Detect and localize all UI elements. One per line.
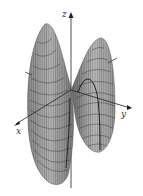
saddle-surface-figure: x y z: [0, 0, 143, 196]
y-axis-label: y: [120, 109, 127, 119]
x-axis-label: x: [16, 126, 21, 136]
z-axis-label: z: [61, 9, 67, 19]
saddle-right-lobe: [72, 38, 115, 152]
z-axis: [69, 12, 74, 90]
